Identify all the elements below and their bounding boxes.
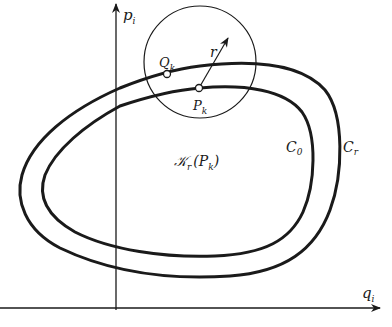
p-k-label: Pk	[192, 98, 207, 116]
point-p-k	[196, 85, 203, 92]
phase-diagram: pi qi Qk Pk r 𝒦r(Pk) C0 Cr	[0, 0, 392, 327]
q-axis-label: qi	[362, 284, 375, 304]
c-0-label: C0	[286, 139, 303, 157]
curve-c-r	[20, 63, 340, 277]
curve-c-0	[43, 87, 314, 256]
neighborhood-label: 𝒦r(Pk)	[174, 153, 219, 172]
p-axis-label: pi	[123, 6, 136, 26]
c-r-label: Cr	[343, 139, 359, 157]
